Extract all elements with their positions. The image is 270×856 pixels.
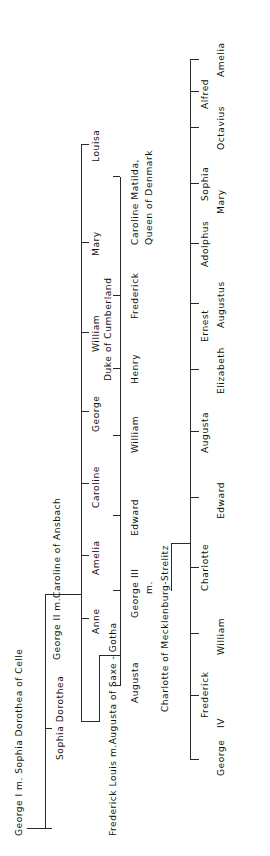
gen3-tick-edward	[113, 515, 120, 516]
gen3-spine	[99, 655, 120, 656]
gen3-child-caroline-matilda: Caroline Matilda,	[130, 159, 141, 245]
gen4-child-george4: George	[216, 740, 227, 776]
gen3-tick-frederick	[113, 295, 120, 296]
gen4-child-octavius: Octavius	[216, 106, 227, 150]
gen4-child-alfred: Alfred	[200, 79, 211, 109]
gen1-tick-sophia-dorothea	[45, 728, 52, 729]
gen1-child-sophia-dorothea: Sophia Dorothea	[55, 676, 66, 760]
gen2-child-mary: Mary	[91, 231, 102, 256]
gen3-child-edward: Edward	[130, 499, 141, 536]
gen3-child-caroline-matilda-note: Queen of Denmark	[144, 150, 155, 245]
gen3-child-frederick: Frederick	[130, 272, 141, 319]
gen2-tick-william	[81, 332, 89, 333]
gen2-child-william-note: Duke of Cumberland	[103, 278, 114, 381]
gen4-child-adolphus: Adolphus	[200, 221, 211, 267]
gen1-couple-label: George I m. Sophia Dorothea of Celle	[14, 649, 25, 836]
gen3-child-henry: Henry	[130, 354, 141, 384]
gen3-bar-left-end	[113, 685, 120, 686]
gen2-child-william: William	[91, 315, 102, 352]
gen4-child-frederick: Frederick	[200, 671, 211, 718]
gen4-child-ernest: Ernest	[200, 310, 211, 342]
gen3-child-william: William	[130, 416, 141, 453]
gen4-tick-adolphus	[190, 243, 199, 244]
gen4-child-augustus: Augustus	[216, 281, 227, 328]
gen4-child-augusta: Augusta	[200, 412, 211, 453]
gen4-tick-alfred	[190, 91, 199, 92]
gen4-tick-augustus	[190, 303, 199, 304]
gen2-tick-george	[81, 411, 89, 412]
gen2-tick-amelia	[81, 555, 89, 556]
gen4-child-george4-note: IV	[216, 718, 227, 728]
gen4-tick-augusta	[190, 431, 199, 432]
family-tree-diagram: George I m. Sophia Dorothea of Celle Sop…	[0, 0, 270, 856]
gen3-child-george3: George III	[130, 568, 141, 618]
gen3-tick-henry	[113, 368, 120, 369]
gen4-tick-william	[190, 633, 199, 634]
gen4-couple-connector	[171, 544, 172, 591]
gen4-spine	[171, 543, 190, 544]
gen1-spine	[27, 828, 45, 829]
gen4-child-mary: Mary	[216, 189, 227, 214]
gen3-couple-connector	[99, 656, 100, 722]
gen1-bar-left-end	[45, 828, 52, 829]
gen4-tick-charlotte	[190, 567, 199, 568]
gen3-bar-right-end	[113, 176, 120, 177]
gen4-child-elizabeth: Elizabeth	[216, 347, 227, 394]
gen4-child-amelia: Amelia	[216, 42, 227, 77]
gen2-child-louisa: Louisa	[91, 130, 102, 162]
gen4-bar-left-end	[190, 759, 199, 760]
gen4-sibling-bar	[190, 60, 191, 760]
gen3-child-george3-m: m.	[144, 581, 155, 594]
gen3-tick-george3	[113, 590, 120, 591]
gen2-child-caroline: Caroline	[91, 466, 102, 508]
gen4-tick-octavius	[190, 127, 199, 128]
gen2-bar-right-end	[81, 144, 89, 145]
gen4-child-edward: Edward	[216, 482, 227, 519]
gen4-tick-elizabeth	[190, 369, 199, 370]
gen2-couple-label: George II m.Caroline of Ansbach	[52, 498, 63, 660]
gen1-sibling-bar	[45, 595, 46, 829]
gen4-child-william: William	[216, 618, 227, 655]
gen3-tick-william	[113, 435, 120, 436]
gen2-child-george: George	[91, 396, 102, 432]
gen2-bar-left-end	[81, 721, 99, 722]
gen2-tick-caroline	[81, 483, 89, 484]
gen2-sibling-bar	[81, 145, 82, 722]
gen2-child-amelia: Amelia	[91, 540, 102, 575]
gen4-tick-sophia	[190, 183, 199, 184]
gen4-child-sophia: Sophia	[200, 167, 211, 201]
gen2-tick-anne	[81, 618, 89, 619]
gen4-spouse-label: Charlotte of Mecklenburg-Strelitz	[160, 545, 171, 712]
gen4-tick-edward	[190, 497, 199, 498]
gen4-child-charlotte: Charlotte	[200, 544, 211, 591]
gen4-tick-frederick	[190, 695, 199, 696]
gen3-sibling-bar	[120, 177, 121, 686]
gen2-spine	[63, 594, 81, 595]
gen4-bar-right-end	[190, 59, 199, 60]
gen2-tick-mary	[81, 242, 89, 243]
gen3-child-augusta: Augusta	[130, 662, 141, 703]
gen2-child-anne: Anne	[91, 608, 102, 634]
